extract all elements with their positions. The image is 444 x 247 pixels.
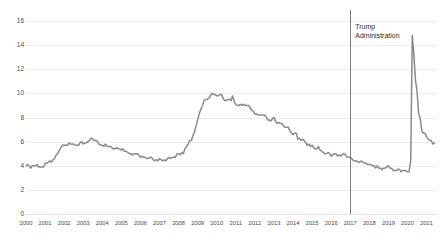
- series-line: [26, 35, 435, 171]
- x-tick-label: 2005: [115, 220, 128, 226]
- x-tick-label: 2021: [420, 220, 433, 226]
- x-tick-label: 2019: [382, 220, 395, 226]
- unemployment-rate-chart: 0246810121416 Trump Administration 20002…: [0, 0, 444, 247]
- x-tick-label: 2010: [210, 220, 223, 226]
- x-tick-label: 2009: [191, 220, 204, 226]
- x-tick-label: 2015: [306, 220, 319, 226]
- x-tick-label: 2020: [401, 220, 414, 226]
- x-tick-label: 2018: [363, 220, 376, 226]
- x-tick-label: 2000: [20, 220, 33, 226]
- x-tick-label: 2004: [96, 220, 109, 226]
- event-marker-line-trump-administration: [350, 10, 351, 214]
- x-tick-label: 2002: [58, 220, 71, 226]
- x-tick-label: 2013: [268, 220, 281, 226]
- x-tick-label: 2006: [134, 220, 147, 226]
- x-tick-label: 2008: [172, 220, 185, 226]
- x-tick-label: 2011: [230, 220, 242, 226]
- x-tick-label: 2012: [248, 220, 261, 226]
- x-tick-label: 2014: [287, 220, 300, 226]
- x-tick-label: 2001: [39, 220, 52, 226]
- x-tick-label: 2007: [153, 220, 166, 226]
- x-tick-label: 2003: [77, 220, 90, 226]
- x-tick-label: 2016: [325, 220, 338, 226]
- x-tick-label: 2017: [344, 220, 357, 226]
- event-label-trump-administration: Trump Administration: [355, 22, 399, 41]
- x-axis-labels: 2000200120022003200420052006200720082009…: [26, 216, 438, 232]
